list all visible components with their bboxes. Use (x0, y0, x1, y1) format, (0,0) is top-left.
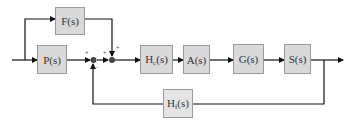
block-a: A(s) (183, 45, 210, 74)
block-p-label: P(s) (43, 54, 61, 66)
sum1-minus-sign: - (96, 64, 98, 70)
block-s: S(s) (284, 44, 311, 74)
block-p: P(s) (37, 45, 67, 74)
sum2-plus-left-sign: + (103, 49, 107, 55)
block-a-label: A(s) (187, 54, 207, 66)
summing-junction-1 (91, 57, 97, 63)
sum2-plus-top-sign: + (116, 44, 120, 50)
block-hc: Hc(s) (140, 45, 173, 74)
summing-junction-2 (109, 57, 115, 63)
block-s-label: S(s) (289, 53, 307, 65)
block-g: G(s) (233, 44, 264, 74)
block-f: F(s) (55, 7, 85, 35)
block-hf-label: Hf(s) (167, 97, 189, 111)
sum1-plus-sign: + (85, 49, 89, 55)
block-hf: Hf(s) (163, 89, 193, 118)
block-f-label: F(s) (61, 15, 79, 27)
block-hc-label: Hc(s) (145, 53, 168, 67)
block-g-label: G(s) (239, 53, 259, 65)
